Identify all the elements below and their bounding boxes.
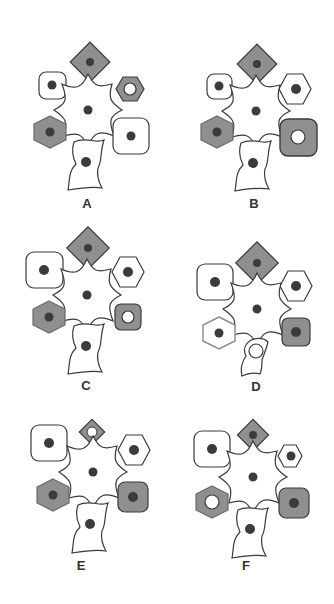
nucleus-icon: [128, 492, 138, 502]
panel-label: F: [242, 558, 250, 573]
nucleus-icon: [123, 267, 133, 277]
nucleus-icon: [49, 491, 58, 500]
nucleus-icon: [84, 244, 92, 252]
panel-f: F: [194, 419, 309, 573]
nucleus-icon: [215, 82, 224, 91]
nucleus-icon: [249, 431, 257, 439]
nucleus-icon: [291, 281, 301, 291]
panel-label: E: [77, 558, 86, 573]
nucleus-icon: [253, 259, 261, 267]
open-nucleus-icon: [87, 427, 97, 437]
nucleus-icon: [81, 341, 91, 351]
panel-label: C: [81, 378, 91, 393]
nucleus-icon: [84, 106, 93, 115]
nucleus-icon: [45, 313, 54, 322]
panel-d: D: [197, 242, 312, 394]
nucleus-icon: [207, 444, 217, 454]
nucleus-icon: [287, 452, 296, 461]
nucleus-icon: [213, 128, 222, 137]
open-nucleus-icon: [122, 311, 134, 323]
nucleus-icon: [81, 157, 91, 167]
panel-b: B: [201, 44, 317, 211]
nucleus-icon: [129, 445, 139, 455]
nucleus-icon: [85, 519, 95, 529]
panel-label: D: [251, 379, 260, 394]
nucleus-icon: [46, 128, 55, 137]
nucleus-icon: [291, 84, 301, 94]
nucleus-icon: [289, 498, 299, 508]
panel-c: C: [26, 227, 144, 393]
nucleus-icon: [127, 132, 136, 141]
nucleus-icon: [291, 327, 301, 337]
open-nucleus-icon: [205, 495, 219, 509]
cell-diagram-figure: A B C: [0, 0, 334, 604]
open-nucleus-icon: [249, 344, 263, 358]
nucleus-icon: [249, 473, 258, 482]
nucleus-icon: [248, 158, 258, 168]
nucleus-icon: [245, 524, 255, 534]
nucleus-icon: [253, 305, 262, 314]
panel-label: B: [249, 196, 258, 211]
panel-e: E: [31, 419, 150, 573]
open-nucleus-icon: [124, 83, 136, 95]
nucleus-icon: [253, 60, 261, 68]
nucleus-icon: [252, 107, 261, 116]
panel-a: A: [34, 42, 149, 211]
nucleus-icon: [210, 277, 220, 287]
nucleus-icon: [215, 329, 224, 338]
nucleus-icon: [44, 438, 54, 448]
nucleus-icon: [48, 81, 57, 90]
nucleus-icon: [86, 58, 94, 66]
open-nucleus-icon: [291, 130, 305, 144]
nucleus-icon: [89, 468, 98, 477]
panel-label: A: [82, 196, 92, 211]
nucleus-icon: [39, 265, 49, 275]
nucleus-icon: [83, 291, 92, 300]
